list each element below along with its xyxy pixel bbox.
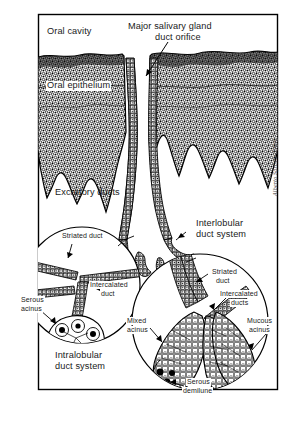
label-excretory-ducts: Excretory ducts (55, 188, 120, 198)
label-striated-duct-left: Striated duct (61, 232, 104, 240)
label-striated-duct-right-line1: Striated (211, 268, 238, 276)
label-oral-cavity: Oral cavity (47, 27, 92, 37)
salivary-gland-figure: Oral cavity Major salivary gland duct or… (0, 0, 292, 422)
label-oral-epithelium: Oral epithelium (46, 81, 111, 91)
label-mixed-acinus-line2: acinus (126, 326, 149, 334)
label-serous-demilune-line1: Serous (186, 378, 211, 386)
figure-artwork (0, 0, 292, 422)
label-intercalated-duct-left-line1: Intercalated (89, 281, 129, 289)
label-mucous-acinus-line1: Mucous (246, 317, 273, 325)
label-mixed-acinus-line1: Mixed (126, 317, 147, 325)
label-interlobular-line1: Interlobular (196, 219, 243, 229)
label-interlobular-line2: duct system (196, 230, 246, 240)
label-striated-duct-right-line2: duct (215, 277, 231, 285)
label-intercalated-duct-left-line2: duct (100, 290, 116, 298)
label-major-duct-orifice-line1: Major salivary gland (128, 22, 212, 32)
label-intercalated-ducts-right-line2: ducts (230, 299, 249, 307)
label-major-duct-orifice-line2: duct orifice (155, 33, 201, 43)
label-mucous-acinus-line2: acinus (248, 326, 271, 334)
label-intercalated-ducts-right-line1: Intercalated (219, 290, 259, 298)
label-intralobular-line2: duct system (55, 362, 105, 372)
label-serous-demilune-line2: demilune (182, 387, 213, 395)
label-serous-acinus-line1: Serous (20, 296, 45, 304)
artist-signature: Alberto Sgrosso-Entec (272, 138, 278, 196)
label-intralobular-line1: Intralobular (55, 351, 102, 361)
label-serous-acinus-line2: acinus (20, 305, 43, 313)
